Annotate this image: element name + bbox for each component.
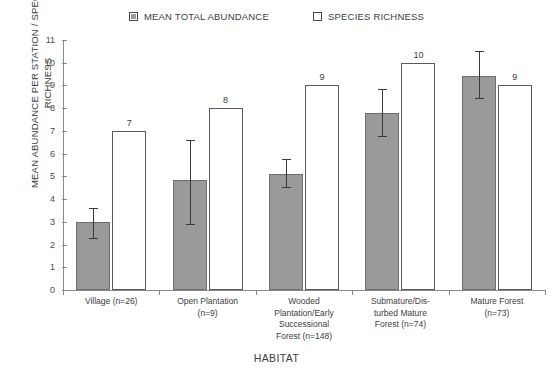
x-axis-line — [63, 290, 545, 291]
x-tick — [63, 290, 64, 295]
bar-groups: 789109 — [63, 40, 545, 290]
bar-mean-total-abundance[interactable] — [269, 174, 303, 290]
x-tick — [256, 290, 257, 295]
x-category-label: Open Plantation(n=9) — [159, 296, 255, 342]
bar-species-richness[interactable] — [209, 108, 243, 290]
x-category-label: Mature Forest(n=73) — [449, 296, 545, 342]
bar-mean-total-abundance[interactable] — [462, 76, 496, 290]
error-bar-cap-bottom — [475, 98, 484, 99]
y-tick-label: 8 — [50, 103, 55, 113]
legend-label-species-richness: SPECIES RICHNESS — [328, 11, 424, 22]
bar-chart: MEAN TOTAL ABUNDANCE SPECIES RICHNESS ME… — [0, 0, 553, 379]
x-tick — [545, 290, 546, 295]
legend-item-mean-total-abundance: MEAN TOTAL ABUNDANCE — [129, 11, 269, 22]
data-label-species-richness: 10 — [413, 50, 423, 60]
bar-group: 9 — [449, 40, 545, 290]
legend-item-species-richness: SPECIES RICHNESS — [313, 11, 424, 22]
error-bar — [286, 159, 287, 187]
x-axis-title: HABITAT — [0, 352, 553, 364]
bar-mean-total-abundance[interactable] — [365, 113, 399, 290]
bar-species-richness[interactable] — [112, 131, 146, 290]
y-tick-label: 1 — [50, 262, 55, 272]
x-tick — [449, 290, 450, 295]
x-tick — [159, 290, 160, 295]
legend-swatch-hollow-icon — [313, 12, 322, 21]
error-bar — [190, 140, 191, 225]
x-category-label: WoodedPlantation/EarlySuccessionalForest… — [256, 296, 352, 342]
plot-area: 01234567891011 789109 — [63, 40, 545, 290]
y-tick-label: 6 — [50, 149, 55, 159]
legend-label-mean-total-abundance: MEAN TOTAL ABUNDANCE — [144, 11, 269, 22]
error-bar-cap-top — [89, 208, 98, 209]
data-label-species-richness: 8 — [223, 95, 228, 105]
bar-species-richness[interactable] — [305, 85, 339, 290]
y-tick-label: 2 — [50, 240, 55, 250]
error-bar — [382, 89, 383, 137]
y-tick-label: 9 — [50, 80, 55, 90]
chart-legend: MEAN TOTAL ABUNDANCE SPECIES RICHNESS — [0, 11, 553, 22]
error-bar-cap-top — [475, 51, 484, 52]
x-tick — [352, 290, 353, 295]
legend-swatch-filled-icon — [129, 12, 138, 21]
error-bar-cap-bottom — [378, 136, 387, 137]
x-category-label: Village (n=26) — [63, 296, 159, 342]
error-bar — [93, 208, 94, 239]
bar-group: 7 — [63, 40, 159, 290]
y-tick-label: 10 — [45, 58, 55, 68]
error-bar-cap-top — [186, 140, 195, 141]
y-tick-label: 4 — [50, 194, 55, 204]
error-bar-cap-top — [282, 159, 291, 160]
data-label-species-richness: 9 — [512, 72, 517, 82]
y-tick-label: 0 — [50, 285, 55, 295]
bar-group: 8 — [159, 40, 255, 290]
y-tick-label: 7 — [50, 126, 55, 136]
x-axis-category-labels: Village (n=26)Open Plantation(n=9)Wooded… — [63, 296, 545, 342]
error-bar-cap-top — [378, 89, 387, 90]
bar-species-richness[interactable] — [498, 85, 532, 290]
x-category-label: Submature/Dis-turbed MatureForest (n=74) — [352, 296, 448, 342]
bar-group: 10 — [352, 40, 448, 290]
data-label-species-richness: 7 — [127, 118, 132, 128]
bar-group: 9 — [256, 40, 352, 290]
error-bar-cap-bottom — [186, 224, 195, 225]
y-tick-label: 3 — [50, 217, 55, 227]
error-bar-cap-bottom — [282, 187, 291, 188]
y-tick-label: 5 — [50, 171, 55, 181]
y-tick-label: 11 — [46, 35, 55, 45]
error-bar — [479, 51, 480, 99]
error-bar-cap-bottom — [89, 238, 98, 239]
bar-species-richness[interactable] — [401, 63, 435, 290]
data-label-species-richness: 9 — [319, 72, 324, 82]
